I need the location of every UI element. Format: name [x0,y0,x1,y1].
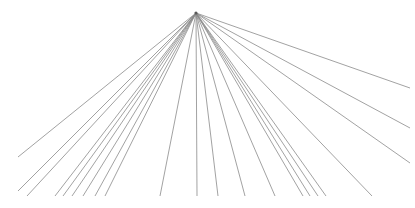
apex-point [194,11,197,14]
radiating-line-fan-figure [0,0,415,208]
